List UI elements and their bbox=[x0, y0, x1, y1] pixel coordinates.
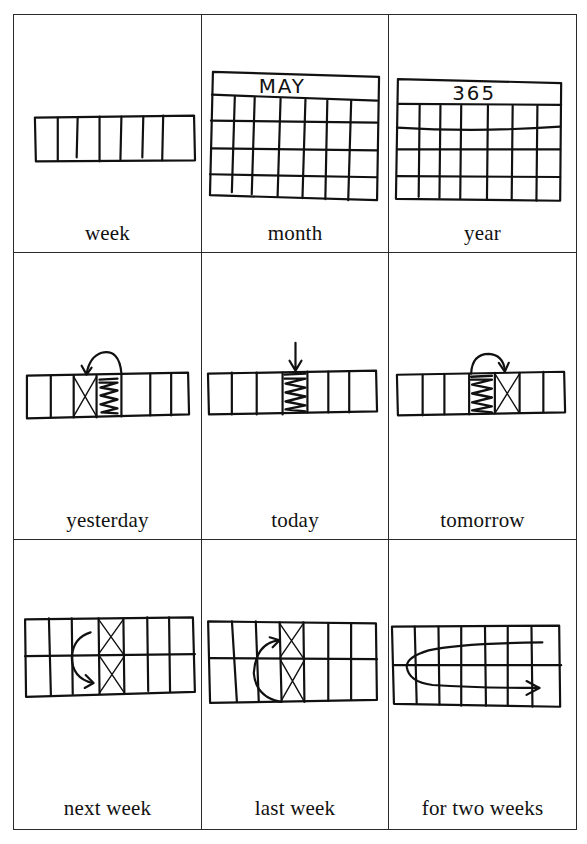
week-strip-icon bbox=[14, 15, 201, 252]
card-for-two-weeks: for two weeks bbox=[389, 540, 576, 829]
tomorrow-strip-icon bbox=[389, 253, 576, 539]
card-label: tomorrow bbox=[389, 508, 576, 533]
today-strip-icon bbox=[202, 253, 388, 539]
card-today: today bbox=[202, 253, 389, 540]
card-last-week: last week bbox=[202, 540, 389, 829]
card-tomorrow: tomorrow bbox=[389, 253, 576, 540]
card-yesterday: yesterday bbox=[14, 253, 202, 540]
vocabulary-card-grid: week MAY month 365 year bbox=[13, 14, 577, 830]
yesterday-strip-icon bbox=[14, 253, 201, 539]
last-week-grid-icon bbox=[202, 540, 388, 829]
year-calendar-icon: 365 bbox=[389, 15, 576, 252]
card-label: year bbox=[389, 221, 576, 246]
card-next-week: next week bbox=[14, 540, 202, 829]
card-label: last week bbox=[202, 796, 388, 821]
card-label: month bbox=[202, 221, 388, 246]
card-label: for two weeks bbox=[389, 796, 576, 821]
month-name-text: MAY bbox=[259, 75, 306, 98]
card-label: next week bbox=[14, 796, 201, 821]
month-calendar-icon: MAY bbox=[202, 15, 388, 252]
card-month: MAY month bbox=[202, 15, 389, 253]
two-weeks-grid-icon bbox=[389, 540, 576, 829]
card-label: yesterday bbox=[14, 508, 201, 533]
card-label: week bbox=[14, 221, 201, 246]
card-year: 365 year bbox=[389, 15, 576, 253]
next-week-grid-icon bbox=[14, 540, 201, 829]
card-week: week bbox=[14, 15, 202, 253]
year-days-text: 365 bbox=[452, 82, 496, 105]
card-label: today bbox=[202, 508, 388, 533]
